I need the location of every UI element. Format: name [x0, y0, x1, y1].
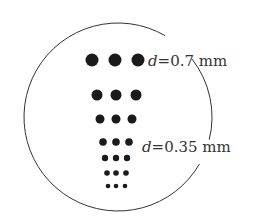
hole-dot	[99, 138, 107, 146]
hole-dot	[132, 54, 145, 67]
hole-dot	[96, 115, 105, 124]
hole-dot	[102, 155, 108, 161]
label-value: =0.7 mm	[158, 52, 228, 70]
hole-dot	[112, 115, 121, 124]
hole-dot	[123, 170, 129, 176]
hole-dot	[112, 138, 120, 146]
hole-dot	[104, 170, 110, 176]
label-var: d	[148, 52, 158, 70]
hole-dot	[113, 155, 119, 161]
hole-dot	[114, 184, 119, 189]
hole-dot	[92, 90, 103, 101]
pinhole-diagram: d=0.7 mm d=0.35 mm	[0, 0, 263, 223]
hole-dot	[106, 184, 111, 189]
hole-dot	[123, 184, 128, 189]
hole-dot	[113, 170, 119, 176]
label-value: =0.35 mm	[152, 138, 231, 156]
hole-dot	[125, 138, 133, 146]
hole-array	[86, 54, 145, 189]
label-large-diameter: d=0.7 mm	[148, 52, 227, 70]
label-small-diameter: d=0.35 mm	[142, 138, 231, 156]
hole-dot	[86, 54, 99, 67]
hole-dot	[109, 54, 122, 67]
hole-dot	[131, 90, 142, 101]
label-var: d	[142, 138, 152, 156]
hole-dot	[111, 90, 122, 101]
circle-arc	[192, 59, 212, 140]
hole-dot	[124, 155, 130, 161]
hole-dot	[128, 115, 137, 124]
